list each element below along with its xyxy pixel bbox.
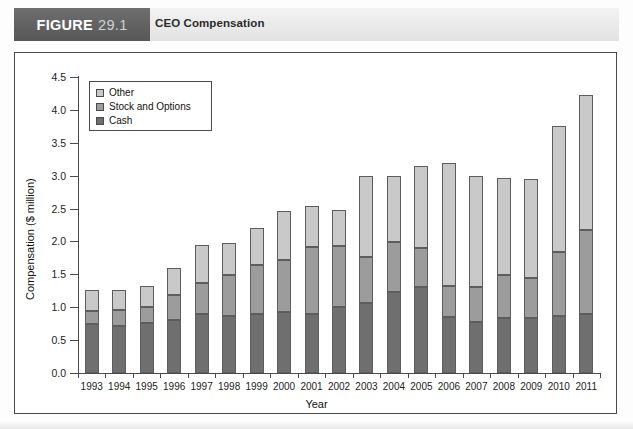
bar-segment-cash [524,318,538,373]
x-axis-tick [298,373,299,378]
x-axis-tick [105,373,106,378]
figure-header: FIGURE 29.1 CEO Compensation [14,8,619,41]
bar-stack [250,228,264,373]
x-axis-tick-label: 1994 [108,381,130,392]
x-axis-tick [215,373,216,378]
bar-segment-other [222,243,236,275]
bar-segment-other [195,245,209,282]
bar-segment-cash [277,312,291,373]
bar-stack [140,286,154,373]
bar-segment-stock [250,265,264,314]
x-axis-tick-label: 2004 [383,381,405,392]
bar-segment-other [250,228,264,265]
bar-segment-cash [250,314,264,373]
legend-item-label: Stock and Options [109,102,191,112]
bar-segment-cash [579,314,593,373]
bar-segment-stock [305,247,319,315]
bar-segment-other [112,290,126,310]
x-axis-tick-label: 2000 [273,381,295,392]
bar-segment-stock [85,311,99,324]
legend-item: Other [96,86,205,100]
bar-stack [414,166,428,373]
bar-segment-stock [167,295,181,319]
x-axis-tick-label: 1996 [163,381,185,392]
bar-segment-cash [305,314,319,373]
bar-segment-stock [332,246,346,307]
bar-segment-other [414,166,428,248]
x-axis-tick [325,373,326,378]
bar-segment-cash [552,316,566,373]
x-axis-tick-label: 1999 [245,381,267,392]
bar-stack [222,243,236,373]
bar-stack [305,206,319,373]
x-axis-tick [545,373,546,378]
bar-segment-stock [552,252,566,316]
y-axis-tick-label: 3.0 [26,170,66,182]
bar-stack [579,95,593,373]
x-axis-tick [243,373,244,378]
bar-stack [552,126,566,373]
bar-segment-stock [414,248,428,287]
y-axis-tick [70,241,78,242]
bar-segment-stock [579,230,593,314]
bar-segment-cash [469,322,483,373]
y-axis-tick [70,274,78,275]
bar-segment-cash [387,292,401,373]
x-axis-title: Year [0,398,633,410]
x-axis-tick [270,373,271,378]
x-axis-tick-label: 2001 [300,381,322,392]
legend-swatch-icon [96,89,104,97]
y-axis-tick [70,176,78,177]
legend-item-label: Other [109,88,134,98]
figure-number-badge: FIGURE 29.1 [14,8,150,41]
bar-segment-other [140,286,154,307]
legend-item: Stock and Options [96,100,205,114]
bar-segment-stock [387,242,401,292]
x-axis-tick [353,373,354,378]
x-axis-tick-label: 2006 [438,381,460,392]
x-axis-tick-label: 1997 [191,381,213,392]
bar-stack [524,179,538,373]
x-axis-tick-label: 2011 [575,381,597,392]
figure-number: 29.1 [98,17,127,33]
bar-segment-stock [222,275,236,316]
bar-segment-cash [414,287,428,373]
bar-segment-cash [140,323,154,373]
y-axis-tick-label: 1.0 [26,301,66,313]
bar-segment-other [359,176,373,258]
bar-segment-cash [222,316,236,373]
y-axis-tick-label: 2.0 [26,235,66,247]
x-axis-tick-label: 1993 [81,381,103,392]
bar-segment-other [552,126,566,252]
x-axis-tick-label: 1998 [218,381,240,392]
bar-stack [387,176,401,373]
y-axis-tick-label: 3.5 [26,137,66,149]
bar-segment-other [305,206,319,247]
y-axis-line [78,76,79,374]
x-axis-tick [408,373,409,378]
figure-title: CEO Compensation [155,17,265,29]
legend-swatch-icon [96,103,104,111]
x-axis-tick [573,373,574,378]
y-axis-tick-label: 2.5 [26,203,66,215]
y-axis-tick [70,143,78,144]
x-axis-tick [78,373,79,378]
bar-segment-stock [442,286,456,317]
x-axis-tick [435,373,436,378]
x-axis-tick-label: 2008 [493,381,515,392]
bar-segment-stock [277,260,291,313]
bar-segment-cash [85,324,99,373]
y-axis-tick [70,110,78,111]
bar-segment-cash [359,303,373,373]
x-axis-tick-label: 2009 [520,381,542,392]
bar-stack [359,176,373,373]
bar-segment-stock [140,307,154,323]
bar-segment-stock [469,287,483,322]
y-axis-tick [70,373,78,374]
bar-segment-cash [332,307,346,373]
figure-label: FIGURE [36,17,93,33]
x-axis-tick-label: 2005 [410,381,432,392]
bar-segment-other [497,178,511,275]
y-axis-tick [70,209,78,210]
bar-segment-other [277,211,291,260]
